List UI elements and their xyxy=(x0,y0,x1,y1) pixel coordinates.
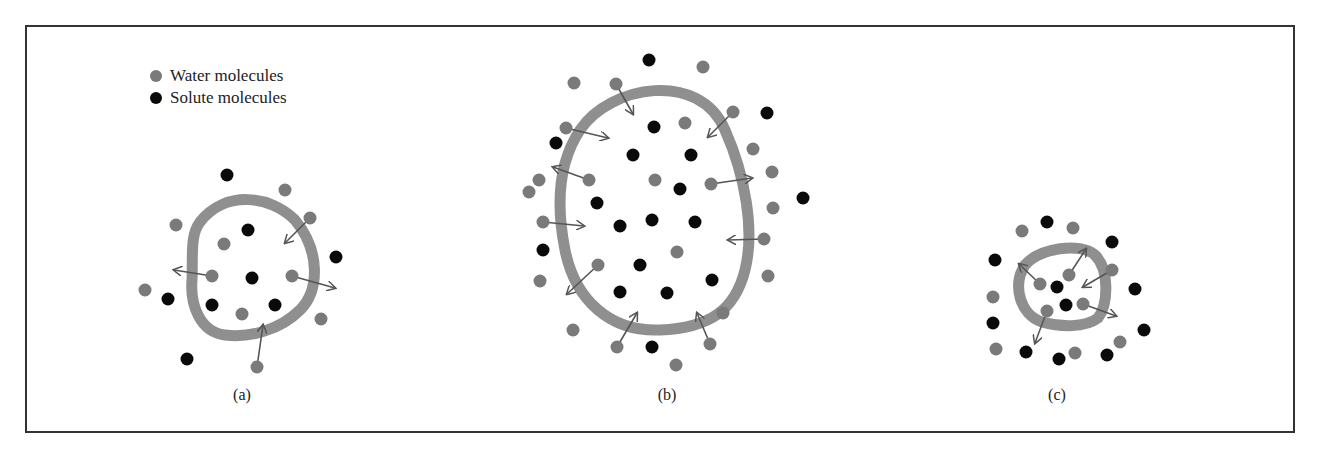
solute-molecule xyxy=(1106,236,1119,249)
water-molecule xyxy=(697,61,710,74)
solute-molecule xyxy=(627,149,640,162)
water-molecule xyxy=(286,270,299,283)
solute-molecule xyxy=(685,149,698,162)
solute-molecule xyxy=(648,121,661,134)
solute-molecule xyxy=(1053,353,1066,366)
water-molecule xyxy=(534,275,547,288)
solute-molecule xyxy=(206,299,219,312)
legend-item-solute: Solute molecules xyxy=(150,87,287,109)
water-molecule xyxy=(1016,225,1029,238)
water-molecule xyxy=(139,284,152,297)
water-molecule xyxy=(1041,305,1054,318)
water-molecule xyxy=(533,174,546,187)
panel-label-b: (b) xyxy=(658,386,677,404)
solute-molecule xyxy=(987,317,1000,330)
solute-molecule xyxy=(689,216,702,229)
solute-molecule xyxy=(646,341,659,354)
water-molecule xyxy=(315,313,328,326)
cell-panel-c xyxy=(987,216,1151,366)
water-molecule xyxy=(758,233,771,246)
solute-molecule xyxy=(1020,346,1033,359)
water-molecule xyxy=(567,324,580,337)
water-molecule xyxy=(717,307,730,320)
solute-molecule xyxy=(797,192,810,205)
water-molecule xyxy=(523,186,536,199)
cell-panel-b xyxy=(523,54,810,372)
solute-molecule xyxy=(591,197,604,210)
water-molecule xyxy=(1114,336,1127,349)
cell-panel-a xyxy=(139,169,343,374)
water-molecule xyxy=(762,270,775,283)
solute-molecule xyxy=(1138,324,1151,337)
water-molecule xyxy=(218,238,231,251)
solute-molecule xyxy=(550,137,563,150)
panel-label-c: (c) xyxy=(1048,386,1066,404)
water-molecule xyxy=(1063,269,1076,282)
solute-molecule xyxy=(537,244,550,257)
water-molecule xyxy=(1034,278,1047,291)
water-molecule xyxy=(1067,222,1080,235)
water-molecule xyxy=(990,343,1003,356)
solute-molecule xyxy=(643,54,656,67)
cell-membrane xyxy=(192,200,315,336)
solute-molecule xyxy=(761,107,774,120)
solute-molecule xyxy=(246,272,259,285)
water-molecule xyxy=(766,166,779,179)
solute-molecule xyxy=(269,299,282,312)
water-molecule xyxy=(679,117,692,130)
solute-molecule xyxy=(674,183,687,196)
solute-molecule xyxy=(646,214,659,227)
water-molecule xyxy=(671,246,684,259)
solute-molecule xyxy=(1101,349,1114,362)
water-molecule xyxy=(236,308,249,321)
water-molecule xyxy=(170,219,183,232)
water-molecule xyxy=(279,184,292,197)
water-molecule xyxy=(583,174,596,187)
solute-molecule-icon xyxy=(150,92,162,104)
solute-molecule xyxy=(706,274,719,287)
solute-molecule xyxy=(989,254,1002,267)
water-molecule xyxy=(560,122,573,135)
water-molecule xyxy=(649,174,662,187)
solute-molecule xyxy=(162,293,175,306)
water-molecule xyxy=(537,216,550,229)
water-molecule xyxy=(1077,298,1090,311)
solute-molecule xyxy=(1060,299,1073,312)
water-molecule xyxy=(767,202,780,215)
solute-molecule xyxy=(242,224,255,237)
solute-molecule xyxy=(661,287,674,300)
water-molecule xyxy=(611,341,624,354)
water-molecule xyxy=(705,178,718,191)
legend-label-solute: Solute molecules xyxy=(170,87,287,109)
legend-item-water: Water molecules xyxy=(150,65,287,87)
water-molecule xyxy=(670,359,683,372)
solute-molecule xyxy=(614,286,627,299)
solute-molecule xyxy=(634,259,647,272)
solute-molecule xyxy=(1129,283,1142,296)
panel-label-a: (a) xyxy=(233,386,251,404)
water-molecule xyxy=(610,78,623,91)
solute-molecule xyxy=(1051,281,1064,294)
solute-molecule xyxy=(181,353,194,366)
water-molecule xyxy=(727,106,740,119)
solute-molecule xyxy=(330,251,343,264)
water-molecule xyxy=(704,338,717,351)
legend-label-water: Water molecules xyxy=(170,65,283,87)
solute-molecule xyxy=(614,220,627,233)
solute-molecule xyxy=(221,169,234,182)
water-molecule xyxy=(251,361,264,374)
water-molecule xyxy=(1069,347,1082,360)
water-molecule xyxy=(747,143,760,156)
water-molecule xyxy=(304,212,317,225)
legend: Water molecules Solute molecules xyxy=(150,65,287,109)
water-molecule xyxy=(987,291,1000,304)
water-molecule-icon xyxy=(150,70,162,82)
solute-molecule xyxy=(1041,216,1054,229)
water-molecule xyxy=(1106,264,1119,277)
water-molecule xyxy=(592,259,605,272)
water-molecule xyxy=(206,270,219,283)
water-molecule xyxy=(568,77,581,90)
